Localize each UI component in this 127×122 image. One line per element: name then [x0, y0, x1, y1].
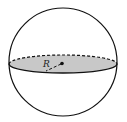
center-point: [60, 62, 64, 66]
radius-label: R: [42, 59, 50, 69]
sphere-diagram: R: [0, 0, 127, 122]
sphere-svg: R: [0, 0, 127, 122]
